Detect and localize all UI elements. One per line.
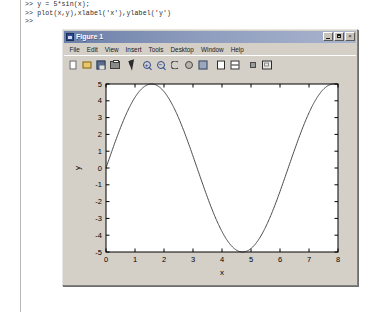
close-button[interactable]: × [345, 32, 355, 41]
y-tick-label: -2 [95, 197, 102, 206]
figure-window[interactable]: Figure 1 × File Edit View Insert Tools D… [62, 29, 358, 286]
zoom-in-button[interactable]: + [140, 58, 153, 71]
command-prompt: >> [25, 18, 355, 27]
new-figure-button[interactable] [66, 58, 79, 71]
hide-plot-tools-button[interactable] [246, 58, 259, 71]
figure-titlebar[interactable]: Figure 1 × [64, 31, 356, 43]
insert-legend-button[interactable] [214, 58, 227, 71]
menu-desktop[interactable]: Desktop [167, 44, 197, 55]
save-figure-button[interactable] [94, 58, 107, 71]
menu-edit[interactable]: Edit [83, 44, 101, 55]
magnifier-plus-icon: + [143, 61, 151, 69]
colorbar-icon [230, 60, 239, 69]
figure-menubar: File Edit View Insert Tools Desktop Wind… [64, 44, 356, 55]
menu-insert[interactable]: Insert [122, 44, 145, 55]
y-tick-label: 3 [98, 113, 102, 122]
plot-background [106, 84, 338, 252]
command-line: >> plot(x,y),xlabel('x'),ylabel('y') [25, 10, 355, 19]
figure-window-title: Figure 1 [76, 31, 103, 43]
figure-toolbar: + − [64, 55, 356, 73]
x-tick-label: 3 [191, 255, 195, 264]
x-tick-label: 5 [249, 255, 253, 264]
minimize-icon [324, 33, 332, 40]
y-tick-label: -4 [95, 231, 102, 240]
print-figure-button[interactable] [108, 58, 121, 71]
floppy-disk-icon [96, 60, 105, 69]
pan-button[interactable] [182, 58, 195, 71]
x-axis-label: x [220, 268, 224, 277]
x-tick-label: 0 [104, 255, 108, 264]
data-cursor-button[interactable] [196, 58, 209, 71]
printer-icon [110, 61, 120, 69]
x-tick-label: 7 [307, 255, 311, 264]
figure-canvas[interactable]: -5-4-3-2-1012345 012345678 x y [64, 72, 356, 284]
document-icon [69, 60, 76, 69]
open-file-button[interactable] [80, 58, 93, 71]
y-axis-label: y [73, 166, 82, 170]
y-tick-label: 4 [98, 96, 102, 105]
plot-axes[interactable]: -5-4-3-2-1012345 012345678 x y [64, 72, 356, 284]
matlab-figure-icon [66, 33, 74, 41]
plot-tools-icon [262, 60, 272, 69]
menu-file[interactable]: File [66, 44, 83, 55]
show-plot-tools-button[interactable] [260, 58, 273, 71]
rotate-3d-button[interactable] [168, 58, 181, 71]
menu-tools[interactable]: Tools [145, 44, 167, 55]
minimize-button[interactable] [323, 32, 333, 41]
rotate-icon [170, 60, 179, 69]
command-line: >> y = 5*sin(x); [25, 1, 355, 10]
y-tick-label: -3 [95, 214, 102, 223]
x-tick-label: 2 [162, 255, 166, 264]
y-tick-label: 1 [98, 147, 102, 156]
close-icon: × [346, 33, 354, 40]
data-cursor-icon [198, 60, 207, 69]
maximize-icon [335, 33, 343, 40]
x-tick-label: 6 [278, 255, 282, 264]
menu-window[interactable]: Window [197, 44, 227, 55]
y-tick-label: -1 [95, 180, 102, 189]
small-square-icon [250, 62, 256, 68]
insert-colorbar-button[interactable] [228, 58, 241, 71]
magnifier-minus-icon: − [157, 61, 165, 69]
hand-pan-icon [185, 61, 193, 69]
y-tick-label: 0 [98, 164, 102, 173]
arrow-pointer-icon [128, 59, 137, 70]
command-window-text: >> y = 5*sin(x); >> plot(x,y),xlabel('x'… [25, 1, 355, 27]
command-window-left-rule [20, 0, 21, 312]
y-tick-label: 5 [98, 80, 102, 89]
y-tick-label: 2 [98, 130, 102, 139]
menu-help[interactable]: Help [227, 44, 247, 55]
y-tick-label: -5 [95, 248, 102, 257]
zoom-out-button[interactable]: − [154, 58, 167, 71]
maximize-button[interactable] [334, 32, 344, 41]
x-tick-label: 4 [220, 255, 224, 264]
x-tick-label: 1 [133, 255, 137, 264]
edit-plot-button[interactable] [126, 58, 139, 71]
menu-view[interactable]: View [101, 44, 122, 55]
legend-icon [217, 60, 225, 69]
x-tick-label: 8 [336, 255, 340, 264]
window-controls: × [323, 32, 355, 41]
folder-open-icon [82, 61, 91, 68]
